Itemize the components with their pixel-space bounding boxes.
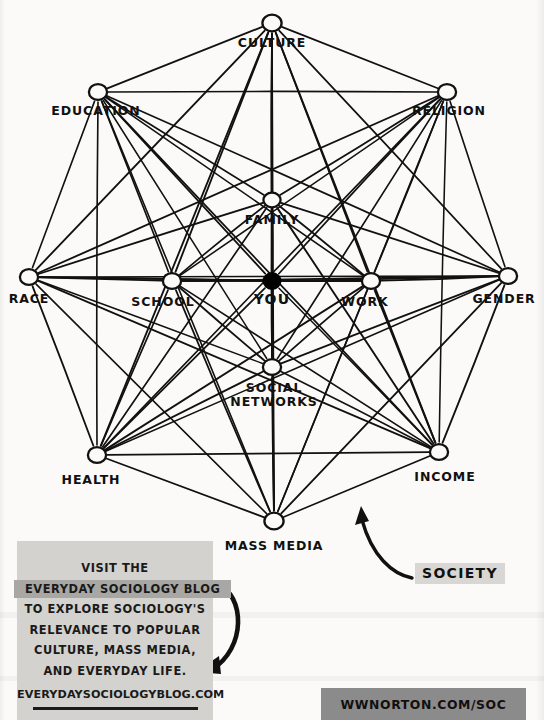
blog-name-highlighted: EVERYDAY SOCIOLOGY BLOG: [23, 580, 222, 599]
node-label-mass_media: MASS MEDIA: [225, 539, 324, 552]
node-label-family: FAMILY: [245, 213, 299, 226]
society-arrow: [355, 506, 412, 578]
blog-caption-line: CULTURE, MASS MEDIA,: [23, 639, 207, 660]
edge-religion-social_networks: [277, 100, 441, 358]
edge-religion-gender: [450, 102, 505, 267]
blog-caption-card[interactable]: VISIT THEEVERYDAY SOCIOLOGY BLOGTO EXPLO…: [17, 541, 213, 720]
edge-school-health: [101, 290, 168, 446]
blog-caption-line: VISIT THE: [23, 557, 207, 578]
edge-gender-social_networks: [281, 280, 498, 364]
node-label-work: WORK: [341, 295, 388, 308]
node-label-school: SCHOOL: [131, 295, 194, 308]
blog-caption-line: EVERYDAY SOCIOLOGY BLOG: [23, 578, 207, 599]
node-education[interactable]: [89, 84, 107, 100]
node-label-culture: CULTURE: [238, 36, 306, 49]
node-social_networks[interactable]: [263, 359, 281, 375]
blog-caption-text-line: CULTURE, MASS MEDIA,: [34, 643, 196, 657]
edge-income-mass_media: [284, 456, 430, 517]
blog-caption-text: VISIT THEEVERYDAY SOCIOLOGY BLOGTO EXPLO…: [17, 541, 213, 680]
edge-education-religion: [108, 91, 437, 92]
node-health[interactable]: [88, 447, 106, 463]
node-income[interactable]: [430, 444, 448, 460]
node-mass_media[interactable]: [264, 513, 283, 530]
blog-caption-text-line: AND EVERYDAY LIFE.: [43, 664, 186, 678]
edge-layer: [33, 27, 505, 517]
node-work[interactable]: [362, 273, 380, 289]
node-religion[interactable]: [438, 84, 456, 100]
blog-caption-text-line: VISIT THE: [81, 561, 148, 575]
blog-url-underline: [33, 707, 198, 710]
node-label-religion: RELIGION: [412, 104, 486, 117]
edge-race-social_networks: [38, 281, 262, 364]
edge-education-health: [97, 102, 98, 445]
node-race[interactable]: [20, 269, 38, 285]
edge-education-race: [33, 101, 95, 267]
node-gender[interactable]: [499, 268, 517, 284]
node-school[interactable]: [163, 273, 181, 289]
node-you[interactable]: [264, 273, 281, 289]
node-label-race: RACE: [9, 292, 50, 305]
node-label-gender: GENDER: [472, 292, 535, 305]
blog-caption-text-line: RELEVANCE TO POPULAR: [30, 623, 201, 637]
node-culture[interactable]: [262, 15, 281, 32]
node-label-health: HEALTH: [62, 473, 121, 486]
blog-caption-line: AND EVERYDAY LIFE.: [23, 660, 207, 681]
edge-religion-income: [439, 102, 447, 442]
diagram-page: CULTUREEDUCATIONRELIGIONFAMILYRACESCHOOL…: [0, 0, 544, 720]
edge-gender-income: [443, 285, 505, 442]
edge-health-income: [107, 452, 429, 455]
node-label-social_networks: SOCIALNETWORKS: [230, 381, 317, 409]
node-label-education: EDUCATION: [51, 104, 140, 117]
node-label-income: INCOME: [414, 470, 475, 483]
blog-url-text[interactable]: EVERYDAYSOCIOLOGYBLOG.COM: [17, 688, 213, 701]
edge-religion-school: [180, 98, 439, 276]
publisher-band[interactable]: WWNORTON.COM/SOC: [321, 688, 526, 720]
node-label-you: YOU: [254, 293, 291, 306]
blog-caption-text-line: TO EXPLORE SOCIOLOGY'S: [24, 602, 205, 616]
blog-caption-line: RELEVANCE TO POPULAR: [23, 619, 207, 640]
publisher-url-text: WWNORTON.COM/SOC: [321, 697, 526, 712]
node-family[interactable]: [263, 193, 280, 208]
blog-caption-line: TO EXPLORE SOCIOLOGY'S: [23, 598, 207, 619]
society-label: SOCIETY: [415, 563, 505, 584]
